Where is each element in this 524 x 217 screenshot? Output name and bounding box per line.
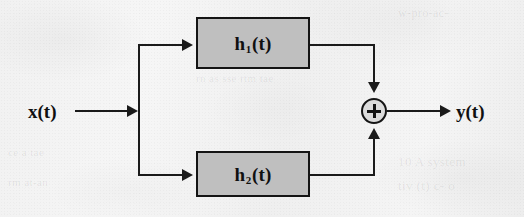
ghost-text: rn as sse rtm tae (196, 72, 274, 84)
input-arrowhead-icon (127, 105, 138, 117)
output-arrowhead-icon (440, 105, 451, 117)
system-block-h2[interactable]: h2(t) (196, 151, 310, 197)
block-diagram-figure: w-pro-ac- ae ss-ae ae a'-sa- rn as sse r… (0, 0, 524, 217)
h2-output-wire (310, 174, 375, 176)
input-signal-label: x(t) (28, 102, 56, 121)
h2-input-arrowhead-icon (182, 169, 193, 181)
ghost-text: 10 A system (398, 154, 466, 170)
h1-to-adder-wire (373, 44, 375, 84)
ghost-text: tiv (t) c- o (398, 178, 455, 194)
output-signal-label: y(t) (456, 102, 484, 121)
split-trunk-wire (138, 44, 140, 176)
system-block-h1[interactable]: h1(t) (196, 17, 310, 69)
ghost-text: rm at-an (8, 176, 48, 188)
adder-top-arrowhead-icon (368, 82, 380, 93)
plus-icon (373, 104, 376, 118)
output-wire (387, 110, 442, 112)
ghost-text: w-pro-ac- (398, 6, 449, 21)
h2-to-adder-wire (373, 138, 375, 176)
adder-bottom-arrowhead-icon (368, 128, 380, 139)
input-wire (75, 110, 129, 112)
h1-output-wire (310, 44, 375, 46)
upper-branch-wire (138, 44, 184, 46)
summing-junction[interactable] (361, 98, 387, 124)
ghost-text: ce a tae (8, 146, 44, 158)
h1-input-arrowhead-icon (182, 39, 193, 51)
lower-branch-wire (138, 174, 184, 176)
system-block-h2-label: h2(t) (234, 165, 271, 184)
system-block-h1-label: h1(t) (234, 34, 271, 53)
